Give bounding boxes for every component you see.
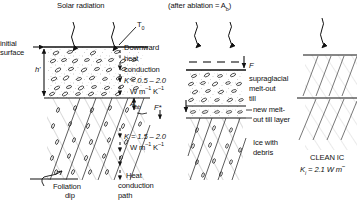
k-upper-value: K = 0.5 – 2.0 <box>124 77 166 86</box>
initial-surface-label-line2: surface <box>0 49 24 58</box>
supraglacial-label-line3: till <box>249 95 256 104</box>
downward-label-line2: heat <box>124 55 138 64</box>
ice-with-debris-label-line1: Ice with <box>253 139 278 148</box>
abb-label: Abb <box>130 100 141 109</box>
downward-label-line3: conduction <box>124 66 160 75</box>
ice-with-debris-label-line2: debris <box>253 149 273 158</box>
k-lower-units: W m–1 K–1 <box>130 144 164 153</box>
supraglacial-label-line2: melt-out <box>249 85 276 94</box>
surface-temperature-label: T0 <box>137 21 144 30</box>
foliation-dip-label-line2: dip <box>65 192 75 201</box>
glacial-melt-out-till-diagram: Solar radiation (after ablation = Ab) in… <box>0 0 357 203</box>
k-upper-units: W m–1 K–1 <box>130 88 164 97</box>
heat-path-label-line1: Heat <box>126 172 142 181</box>
solar-radiation-arrow-right <box>321 18 324 48</box>
heat-path-label-line2: conduction <box>118 182 154 191</box>
new-layer-label-line1: new melt- <box>253 106 285 115</box>
k-lower-value: K = 1.5 – 2.0 <box>124 133 166 142</box>
supraglacial-label-line1: supraglacial <box>249 75 288 84</box>
thickness-h-label: h' <box>35 66 40 75</box>
clean-ice-label: CLEAN IC <box>310 154 344 163</box>
flux-F-label: F <box>249 62 254 71</box>
clean-ice-conductivity: Ki = 2.1 W m– <box>300 166 345 175</box>
after-ablation-header: (after ablation = Ab) <box>168 2 231 11</box>
middle-new-melt-out-layer <box>188 106 243 118</box>
solar-radiation-arrows-middle <box>195 22 232 48</box>
fstar-label: F* <box>154 104 161 113</box>
new-layer-label-line2: out till layer <box>253 116 290 125</box>
downward-label-line1: Downward <box>124 44 159 53</box>
solar-radiation-label: Solar radiation <box>57 2 104 11</box>
heat-path-label-line3: path <box>118 192 132 201</box>
